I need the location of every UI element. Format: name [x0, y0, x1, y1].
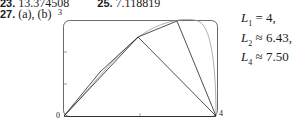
curve	[64, 19, 216, 116]
result-L2: L2 ≈ 6.43,	[241, 31, 292, 51]
polygon-L2	[64, 37, 216, 116]
polygon-L4	[64, 21, 216, 116]
plot-frame	[64, 21, 218, 117]
length-results: L1 = 4, L2 ≈ 6.43, L4 ≈ 7.50	[241, 11, 292, 70]
result-L1: L1 = 4,	[241, 11, 292, 31]
result-L4: L4 ≈ 7.50	[241, 50, 292, 70]
